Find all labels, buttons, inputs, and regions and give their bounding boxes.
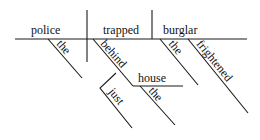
word-house: house: [138, 71, 166, 85]
sentence-diagram: police trapped burglar the behind house …: [0, 0, 260, 140]
word-subject: police: [31, 23, 60, 37]
word-the-burglar: the: [166, 37, 186, 57]
diagram-canvas: police trapped burglar the behind house …: [0, 0, 260, 140]
word-the-house: the: [146, 84, 166, 104]
word-just: just: [105, 84, 128, 108]
modifier-line-frightened: [188, 39, 248, 113]
word-object: burglar: [163, 23, 197, 37]
word-frightened: frightened: [194, 37, 236, 84]
word-the-police: the: [54, 37, 74, 57]
word-behind: behind: [98, 37, 130, 71]
word-verb: trapped: [103, 23, 139, 37]
